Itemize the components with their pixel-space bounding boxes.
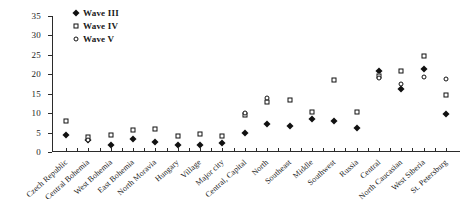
data-point-open-square bbox=[309, 109, 314, 114]
data-point-filled-diamond bbox=[152, 138, 159, 145]
x-axis-labels: Czech RepublicCentral BohemiaWest Bohemi… bbox=[52, 152, 460, 220]
data-point-open-square bbox=[421, 54, 426, 59]
y-tick-label: 25 bbox=[32, 50, 41, 60]
data-point-open-square bbox=[198, 131, 203, 136]
data-point-open-square bbox=[131, 127, 136, 132]
y-tick bbox=[48, 16, 52, 17]
filled-diamond-icon bbox=[72, 9, 79, 16]
chart-legend: Wave IIIWave IVWave V bbox=[70, 6, 119, 45]
y-tick bbox=[48, 35, 52, 36]
y-tick bbox=[48, 55, 52, 56]
data-point-open-circle bbox=[265, 95, 270, 100]
data-point-open-square bbox=[108, 132, 113, 137]
y-tick-label: 0 bbox=[36, 147, 41, 157]
y-tick bbox=[48, 94, 52, 95]
data-point-open-circle bbox=[399, 81, 404, 86]
y-tick-label: 10 bbox=[32, 108, 41, 118]
data-point-filled-diamond bbox=[130, 136, 137, 143]
y-tick-label: 20 bbox=[32, 69, 41, 79]
y-tick bbox=[48, 133, 52, 134]
y-tick-label: 15 bbox=[32, 89, 41, 99]
data-point-filled-diamond bbox=[353, 124, 360, 131]
legend-label: Wave IV bbox=[83, 21, 118, 31]
data-point-open-square bbox=[220, 133, 225, 138]
legend-marker-filled-diamond-icon bbox=[70, 7, 81, 18]
data-point-filled-diamond bbox=[442, 110, 449, 117]
y-tick-label: 30 bbox=[32, 30, 41, 40]
legend-label: Wave III bbox=[83, 8, 119, 18]
data-point-filled-diamond bbox=[197, 141, 204, 148]
y-tick-label: 5 bbox=[36, 128, 41, 138]
y-axis-line bbox=[52, 16, 53, 152]
y-tick-label: 35 bbox=[32, 11, 41, 21]
data-point-open-square bbox=[175, 133, 180, 138]
y-tick bbox=[48, 113, 52, 114]
data-point-filled-diamond bbox=[107, 141, 114, 148]
open-circle-icon bbox=[73, 36, 78, 41]
data-point-filled-diamond bbox=[420, 66, 427, 73]
legend-item: Wave III bbox=[70, 6, 119, 19]
data-point-filled-diamond bbox=[286, 123, 293, 130]
data-point-filled-diamond bbox=[264, 120, 271, 127]
legend-item: Wave V bbox=[70, 32, 119, 45]
data-point-filled-diamond bbox=[241, 129, 248, 136]
legend-marker-open-circle-icon bbox=[70, 33, 81, 44]
data-point-open-square bbox=[64, 118, 69, 123]
data-point-open-square bbox=[287, 97, 292, 102]
open-square-icon bbox=[73, 23, 78, 28]
data-point-filled-diamond bbox=[174, 142, 181, 149]
data-point-filled-diamond bbox=[62, 131, 69, 138]
legend-marker-open-square-icon bbox=[70, 20, 81, 31]
chart-figure: 05101520253035 Wave IIIWave IVWave V Cze… bbox=[0, 0, 470, 220]
data-point-open-circle bbox=[86, 137, 91, 142]
x-tick-label: Hungary bbox=[153, 158, 180, 184]
y-tick bbox=[48, 74, 52, 75]
data-point-filled-diamond bbox=[219, 140, 226, 147]
data-point-open-circle bbox=[421, 74, 426, 79]
data-point-open-square bbox=[153, 126, 158, 131]
data-point-open-circle bbox=[444, 76, 449, 81]
data-point-open-circle bbox=[376, 76, 381, 81]
data-point-filled-diamond bbox=[308, 115, 315, 122]
x-tick-label: Russia bbox=[337, 158, 359, 179]
data-point-filled-diamond bbox=[398, 85, 405, 92]
data-point-open-square bbox=[399, 69, 404, 74]
data-point-open-square bbox=[444, 93, 449, 98]
data-point-filled-diamond bbox=[331, 117, 338, 124]
data-point-open-square bbox=[354, 109, 359, 114]
data-point-open-square bbox=[332, 78, 337, 83]
legend-item: Wave IV bbox=[70, 19, 119, 32]
data-point-open-circle bbox=[242, 110, 247, 115]
legend-label: Wave V bbox=[83, 34, 114, 44]
